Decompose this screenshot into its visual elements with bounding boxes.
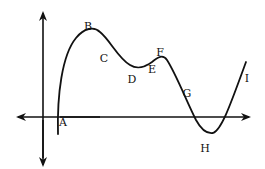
- point-label-f: F: [156, 46, 164, 59]
- point-label-g: G: [183, 87, 192, 100]
- point-label-h: H: [200, 142, 210, 155]
- function-curve: [58, 29, 246, 134]
- point-label-b: B: [84, 20, 92, 33]
- point-label-e: E: [148, 63, 156, 76]
- point-label-d: D: [128, 73, 137, 86]
- point-label-a: A: [58, 116, 68, 129]
- function-graph-diagram: A B C D E F G H I: [0, 0, 265, 169]
- point-labels: A B C D E F G H I: [58, 20, 249, 155]
- point-label-c: C: [100, 52, 108, 65]
- point-label-i: I: [245, 72, 249, 85]
